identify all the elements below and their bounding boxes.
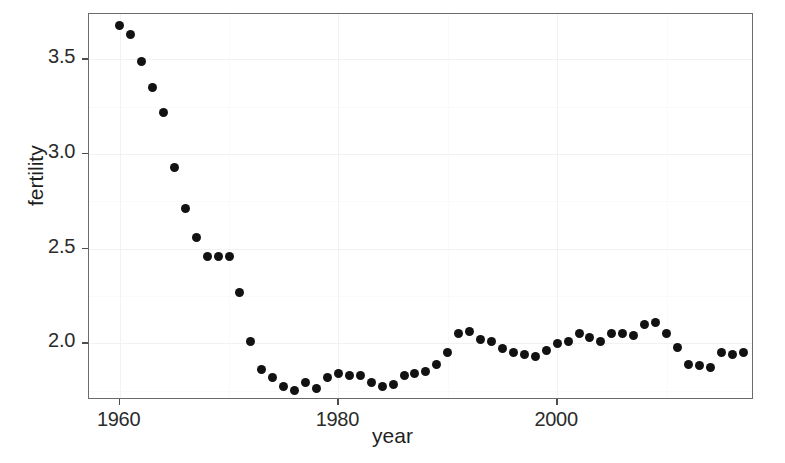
data-point xyxy=(115,21,124,30)
plot-panel xyxy=(88,13,753,399)
data-point xyxy=(432,360,441,369)
data-point xyxy=(192,233,201,242)
gridline-y-minor xyxy=(89,296,752,297)
x-axis-title: year xyxy=(0,424,785,448)
data-point xyxy=(717,348,726,357)
data-point xyxy=(334,369,343,378)
data-point xyxy=(651,318,660,327)
data-point xyxy=(246,337,255,346)
data-point xyxy=(137,57,146,66)
data-point xyxy=(465,327,474,336)
data-point xyxy=(443,348,452,357)
scatter-plot-figure: 2.02.53.03.5 196019802000 fertility year xyxy=(0,0,785,463)
data-point xyxy=(389,380,398,389)
data-point xyxy=(312,384,321,393)
data-point xyxy=(126,30,135,39)
x-tick-mark xyxy=(337,399,338,405)
y-tick-label: 3.5 xyxy=(0,45,75,68)
gridline-x-minor xyxy=(229,14,230,398)
data-point xyxy=(214,252,223,261)
data-point xyxy=(575,329,584,338)
data-point xyxy=(607,329,616,338)
data-point xyxy=(268,373,277,382)
data-point xyxy=(148,83,157,92)
data-point xyxy=(673,343,682,352)
data-point xyxy=(400,371,409,380)
data-point xyxy=(706,363,715,372)
data-point xyxy=(290,386,299,395)
x-tick-mark xyxy=(556,399,557,405)
data-point xyxy=(203,252,212,261)
data-point xyxy=(629,331,638,340)
x-tick-mark xyxy=(119,399,120,405)
gridline-y-major xyxy=(89,249,752,250)
y-tick-label: 2.5 xyxy=(0,235,75,258)
gridline-y-minor xyxy=(89,107,752,108)
data-point xyxy=(596,337,605,346)
gridline-x-minor xyxy=(448,14,449,398)
data-point xyxy=(509,348,518,357)
data-point xyxy=(728,350,737,359)
y-tick-mark xyxy=(82,248,88,249)
data-point xyxy=(345,371,354,380)
y-tick-label: 2.0 xyxy=(0,329,75,352)
data-point xyxy=(356,371,365,380)
gridline-x-major xyxy=(338,14,339,398)
data-point xyxy=(520,350,529,359)
data-point xyxy=(367,378,376,387)
data-point xyxy=(542,346,551,355)
data-point xyxy=(564,337,573,346)
y-axis-title: fertility xyxy=(24,145,48,206)
data-point xyxy=(170,163,179,172)
y-tick-mark xyxy=(82,153,88,154)
data-point xyxy=(181,204,190,213)
data-point xyxy=(323,373,332,382)
data-point xyxy=(410,369,419,378)
data-point xyxy=(487,337,496,346)
data-point xyxy=(257,365,266,374)
gridline-y-major xyxy=(89,59,752,60)
data-point xyxy=(553,339,562,348)
gridline-y-major xyxy=(89,343,752,344)
data-point xyxy=(531,352,540,361)
data-point xyxy=(618,329,627,338)
data-point xyxy=(739,348,748,357)
data-point xyxy=(378,382,387,391)
y-tick-mark xyxy=(82,342,88,343)
gridline-x-major xyxy=(120,14,121,398)
data-point xyxy=(585,333,594,342)
gridline-x-minor xyxy=(667,14,668,398)
data-point xyxy=(684,360,693,369)
gridline-y-minor xyxy=(89,201,752,202)
gridline-y-major xyxy=(89,154,752,155)
data-point xyxy=(159,108,168,117)
y-tick-mark xyxy=(82,58,88,59)
data-point xyxy=(225,252,234,261)
data-point xyxy=(301,378,310,387)
data-point xyxy=(640,320,649,329)
gridline-y-minor xyxy=(89,391,752,392)
data-point xyxy=(662,329,671,338)
data-point xyxy=(476,335,485,344)
data-point xyxy=(695,361,704,370)
data-point xyxy=(421,367,430,376)
data-point xyxy=(498,344,507,353)
data-point xyxy=(454,329,463,338)
